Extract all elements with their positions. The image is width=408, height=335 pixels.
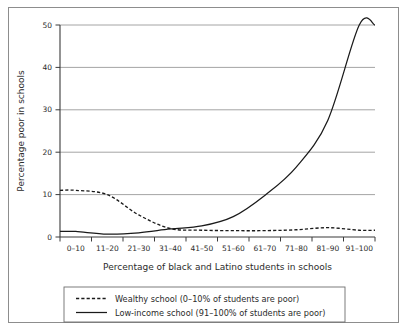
y-tick-label-40: 40 bbox=[42, 63, 52, 72]
x-tick-label-6: 61–70 bbox=[253, 244, 276, 253]
x-axis-ticks bbox=[60, 237, 375, 242]
y-tick-label-50: 50 bbox=[42, 21, 52, 30]
y-tick-label-20: 20 bbox=[42, 148, 52, 157]
x-tick-label-8: 81–90 bbox=[316, 244, 339, 253]
gridlines bbox=[60, 25, 375, 195]
legend-label-low-income: Low-income school (91–100% of students a… bbox=[115, 308, 326, 318]
chart-figure: 50 40 30 20 10 0 0–10 11–20 21–30 31–40 … bbox=[0, 0, 408, 335]
x-tick-label-2: 21–30 bbox=[127, 244, 150, 253]
x-tick-label-9: 91–100 bbox=[345, 244, 373, 253]
x-tick-label-7: 71–80 bbox=[285, 244, 308, 253]
y-tick-label-0: 0 bbox=[47, 233, 52, 242]
y-axis-title: Percentage poor in schools bbox=[16, 70, 26, 192]
x-tick-label-0: 0–10 bbox=[67, 244, 85, 253]
y-tick-label-10: 10 bbox=[42, 190, 52, 199]
legend: Wealthy school (0–10% of students are po… bbox=[64, 287, 345, 322]
y-tick-label-30: 30 bbox=[42, 105, 52, 114]
line-chart: 50 40 30 20 10 0 0–10 11–20 21–30 31–40 … bbox=[0, 0, 408, 335]
x-tick-label-4: 41–50 bbox=[190, 244, 213, 253]
series-line-wealthy bbox=[60, 190, 375, 231]
x-axis-title: Percentage of black and Latino students … bbox=[103, 262, 332, 272]
x-tick-label-3: 31–40 bbox=[159, 244, 182, 253]
x-tick-label-1: 11–20 bbox=[96, 244, 119, 253]
legend-label-wealthy: Wealthy school (0–10% of students are po… bbox=[115, 294, 299, 304]
x-tick-label-5: 51–60 bbox=[222, 244, 245, 253]
y-axis-ticks bbox=[56, 25, 61, 237]
series-line-low-income bbox=[60, 18, 375, 234]
